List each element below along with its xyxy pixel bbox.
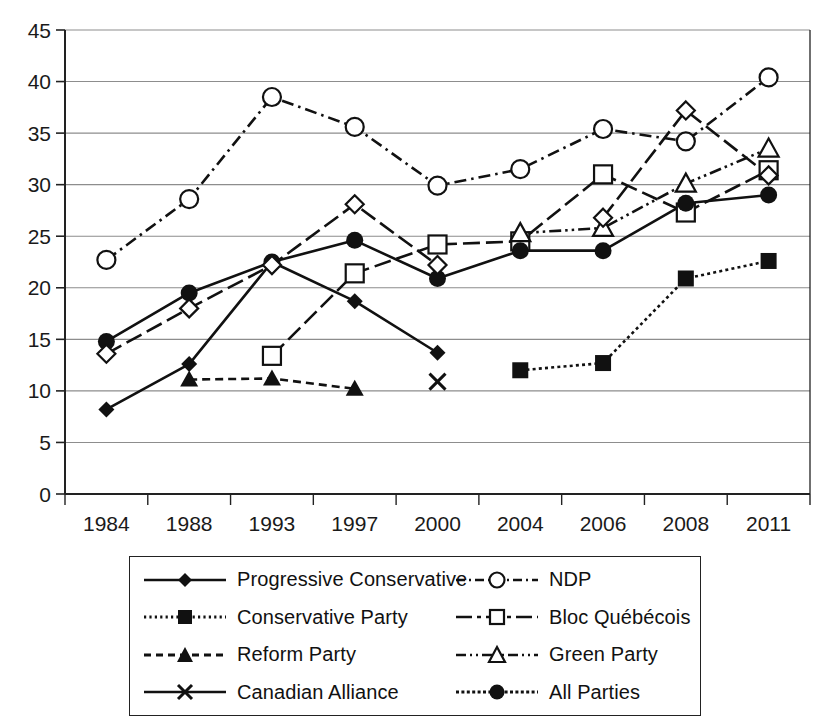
legend-sample-canadian-alliance [142,681,228,703]
data-point [263,347,281,365]
data-point [180,190,198,208]
data-point [97,251,115,269]
legend-sample-reform-party [142,644,228,666]
legend-item-bloc-quebecois[interactable]: Bloc Québécois [454,606,714,629]
series-line-green-party [520,149,768,234]
data-point [180,299,198,317]
series-line-progressive-conservative [106,262,437,409]
series-line-green-party-diamond [106,110,768,353]
data-point [347,293,363,309]
y-axis-tick-label: 15 [28,328,51,351]
legend-label-progressive-conservative: Progressive Conservative [237,568,467,591]
data-point [595,355,611,371]
data-point [512,242,529,259]
data-point [595,242,612,259]
series-markers-conservative-party [512,253,776,378]
y-axis-tick-label: 20 [28,276,51,299]
chart-page: 0510152025303540451984198819931997200020… [0,0,831,720]
x-axis-tick-label: 2008 [662,512,709,535]
legend-sample-ndp [454,569,540,591]
data-point [346,195,364,213]
legend-grid: Progressive Conservative NDP Conservativ… [130,557,700,715]
legend-item-reform-party[interactable]: Reform Party [142,643,454,666]
y-axis-tick-label: 10 [28,379,51,402]
plot-area: 0510152025303540451984198819931997200020… [0,0,831,545]
data-point [429,177,447,195]
data-point [97,345,115,363]
data-point [430,345,446,361]
x-axis-tick-label: 1988 [166,512,213,535]
data-point [346,264,364,282]
y-axis-tick-label: 35 [28,122,51,145]
legend-label-reform-party: Reform Party [237,643,356,666]
x-axis-tick-label: 2011 [746,512,791,535]
data-point [677,195,694,212]
x-axis-tick-label: 2006 [580,512,627,535]
data-point [263,88,281,106]
legend-sample-bloc-quebecois [454,606,540,628]
data-point [594,120,612,138]
y-axis-tick-label: 25 [28,225,51,248]
data-point [512,362,528,378]
series-line-bloc-qu-b-cois [272,170,769,356]
series-line-ndp [106,77,768,260]
legend-label-bloc-quebecois: Bloc Québécois [549,606,690,629]
y-axis-tick-label: 5 [39,431,51,454]
legend-item-progressive-conservative[interactable]: Progressive Conservative [142,568,454,591]
legend-sample-progressive-conservative [142,569,228,591]
legend-sample-all-parties [454,681,540,703]
legend-item-green-party[interactable]: Green Party [454,643,714,666]
data-point [678,270,694,286]
y-axis-tick-label: 40 [28,70,51,93]
legend-item-ndp[interactable]: NDP [454,568,714,591]
series-markers-canadian-alliance [430,374,446,390]
x-axis-tick-label: 1997 [331,512,378,535]
data-point [430,374,446,390]
data-point [676,174,696,192]
legend-label-canadian-alliance: Canadian Alliance [237,681,399,704]
legend-item-all-parties[interactable]: All Parties [454,681,714,704]
data-point [346,232,363,249]
data-point [429,235,447,253]
data-point [594,165,612,183]
legend-label-all-parties: All Parties [549,681,640,704]
x-axis-tick-label: 2000 [414,512,461,535]
x-axis-tick-label: 2004 [497,512,544,535]
legend-sample-green-party [454,644,540,666]
data-point [511,160,529,178]
data-point [761,253,777,269]
data-point [98,401,114,417]
legend-sample-conservative-party [142,606,228,628]
series-markers-green-party-diamond [97,101,777,362]
line-chart-svg: 0510152025303540451984198819931997200020… [0,0,831,545]
legend-label-conservative-party: Conservative Party [237,606,408,629]
legend-item-conservative-party[interactable]: Conservative Party [142,606,454,629]
data-point [429,256,447,274]
legend-item-canadian-alliance[interactable]: Canadian Alliance [142,681,454,704]
chart-legend: Progressive Conservative NDP Conservativ… [129,556,701,716]
legend-label-green-party: Green Party [549,643,658,666]
legend-label-ndp: NDP [549,568,592,591]
series-line-conservative-party [520,261,768,370]
y-axis-tick-label: 0 [39,483,51,506]
x-axis-tick-label: 1993 [249,512,296,535]
data-point [759,139,779,157]
y-axis-tick-label: 30 [28,173,51,196]
series-markers-reform-party [180,370,364,396]
y-axis-tick-label: 45 [28,19,51,42]
data-point [346,118,364,136]
series-markers-bloc-qu-b-cois [263,161,778,365]
x-axis-tick-label: 1984 [83,512,130,535]
data-point [263,370,281,386]
data-point [760,68,778,86]
data-point [677,132,695,150]
data-point [760,186,777,203]
